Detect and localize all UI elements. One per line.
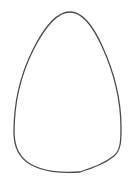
egg-outline-shape xyxy=(14,12,121,172)
egg-outline-canvas xyxy=(0,0,130,179)
